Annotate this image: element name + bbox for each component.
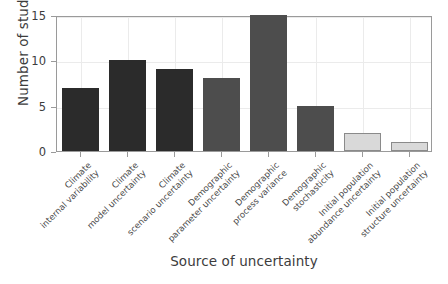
x-tick-mark	[268, 152, 269, 157]
x-tick-mark	[315, 152, 316, 157]
y-tick-label: 5	[0, 100, 46, 114]
bar	[203, 78, 241, 151]
x-tick-mark	[221, 152, 222, 157]
x-tick-mark	[80, 152, 81, 157]
x-tick-mark	[127, 152, 128, 157]
gridline-horizontal	[57, 17, 431, 18]
y-tick-label: 0	[0, 145, 46, 159]
x-axis-title: Source of uncertainty	[56, 253, 432, 269]
y-tick-mark	[51, 152, 56, 153]
y-tick-label: 10	[0, 54, 46, 68]
plot-area	[56, 16, 432, 152]
gridline-vertical	[363, 17, 364, 151]
x-tick-mark	[409, 152, 410, 157]
x-tick-mark	[362, 152, 363, 157]
bar	[250, 15, 288, 151]
bar	[62, 88, 100, 151]
bar	[391, 142, 429, 151]
bar	[344, 133, 382, 151]
gridline-vertical	[410, 17, 411, 151]
bar	[156, 69, 194, 151]
bar-chart-figure: Number of studies 051015 Climateinternal…	[0, 0, 448, 284]
bar	[109, 60, 147, 151]
x-tick-mark	[174, 152, 175, 157]
y-tick-label: 15	[0, 9, 46, 23]
bar	[297, 106, 335, 151]
